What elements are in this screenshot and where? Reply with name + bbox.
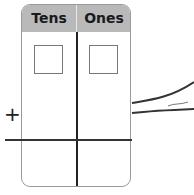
hand-sketch-icon xyxy=(130,60,194,130)
sum-line xyxy=(5,139,132,141)
column-divider xyxy=(76,32,78,187)
chart-header: Tens Ones xyxy=(22,5,130,32)
header-ones: Ones xyxy=(77,5,131,32)
plus-sign: + xyxy=(4,104,21,124)
ones-answer-box[interactable] xyxy=(89,45,118,74)
header-tens: Tens xyxy=(22,5,76,32)
tens-answer-box[interactable] xyxy=(34,45,63,74)
place-value-chart: Tens Ones xyxy=(21,4,131,187)
